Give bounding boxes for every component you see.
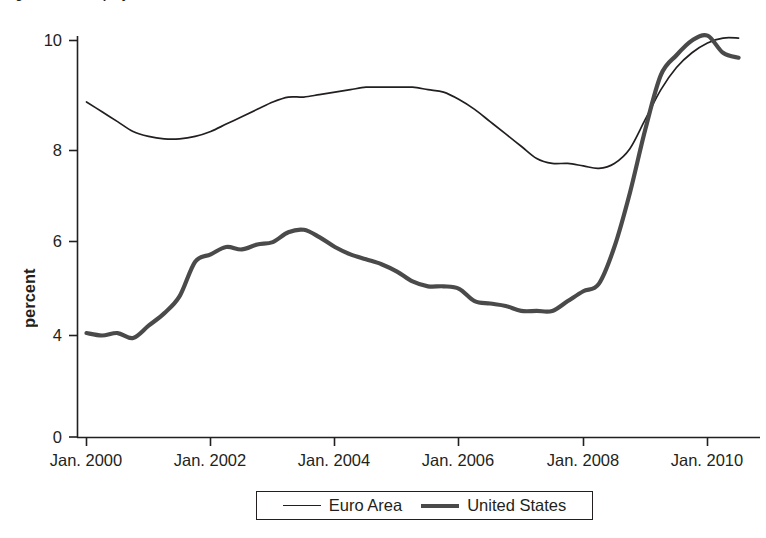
legend-item-united-states[interactable]: United States [421, 497, 566, 514]
y-tick-marks [69, 41, 78, 438]
plot-area [0, 0, 766, 538]
legend-label-euro-area: Euro Area [329, 497, 402, 514]
series-line-united-states [87, 35, 739, 338]
legend-label-united-states: United States [467, 497, 566, 514]
legend-swatch-euro-area-icon [283, 505, 321, 506]
x-tick-marks [87, 438, 708, 447]
legend: Euro Area United States [256, 491, 593, 520]
legend-item-euro-area[interactable]: Euro Area [283, 497, 402, 514]
figure-container: Figure 3.2 Unemployment Rates in the Eur… [0, 0, 766, 538]
legend-swatch-united-states-icon [421, 504, 459, 508]
